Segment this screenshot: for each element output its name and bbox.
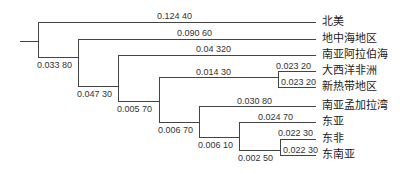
phylogenetic-tree: 0.124 40 0.090 60 0.04 320 0.023 20 0.02… — [0, 0, 407, 174]
branch-east-africa — [280, 139, 316, 140]
branch-e-to-d — [159, 77, 279, 78]
node-g-vertical — [239, 122, 240, 151]
branch-label: 0.030 80 — [237, 96, 272, 106]
leaf-label: 东亚 — [322, 116, 344, 128]
node-b-vertical — [78, 39, 79, 87]
leaf-label: 大西洋非洲 — [322, 65, 377, 77]
node-label: 0.006 70 — [158, 125, 193, 135]
branch-a-to-b — [38, 57, 79, 58]
node-label: 0.033 80 — [37, 60, 72, 70]
branch-east-asia — [239, 122, 316, 123]
node-e-vertical — [159, 77, 160, 123]
branch-e-to-f — [159, 122, 199, 123]
branch-label: 0.023 20 — [276, 61, 311, 71]
branch-label: 0.022 30 — [278, 128, 313, 138]
branch-f-to-g — [199, 137, 240, 138]
branch-neotropics — [278, 87, 316, 88]
branch-atlantic-africa — [278, 71, 316, 72]
leaf-label: 南亚孟加拉湾 — [322, 100, 388, 112]
node-label: 0.005 70 — [117, 104, 152, 114]
branch-c-to-e — [118, 101, 159, 102]
leaf-label: 东南亚 — [322, 149, 355, 161]
branch-north-america — [38, 22, 316, 23]
branch-g-to-h — [239, 150, 281, 151]
leaf-label: 新热带地区 — [322, 81, 377, 93]
branch-label: 0.023 20 — [281, 77, 316, 87]
branch-label: 0.04 320 — [196, 44, 231, 54]
node-label: 0.014 30 — [196, 67, 231, 77]
node-label: 0.002 50 — [238, 153, 273, 163]
node-label: 0.047 30 — [77, 89, 112, 99]
node-d-vertical — [278, 71, 279, 88]
branch-southeast-asia — [280, 155, 316, 156]
node-f-vertical — [199, 106, 200, 138]
branch-label: 0.124 40 — [157, 11, 192, 21]
leaf-label: 东非 — [322, 133, 344, 145]
node-h-vertical — [280, 139, 281, 156]
leaf-label: 地中海地区 — [322, 33, 377, 45]
node-label: 0.006 10 — [198, 140, 233, 150]
leaf-label: 北美 — [322, 16, 344, 28]
branch-label: 0.090 60 — [177, 28, 212, 38]
root-branch — [20, 41, 39, 42]
branch-arabian-sea — [118, 55, 316, 56]
branch-b-to-c — [78, 86, 119, 87]
branch-bay-of-bengal — [199, 106, 316, 107]
node-c-vertical — [118, 55, 119, 102]
branch-label: 0.022 30 — [283, 145, 318, 155]
branch-mediterranean — [78, 39, 316, 40]
branch-label: 0.024 70 — [258, 112, 293, 122]
leaf-label: 南亚阿拉伯海 — [322, 49, 388, 61]
node-a-vertical — [38, 22, 39, 58]
